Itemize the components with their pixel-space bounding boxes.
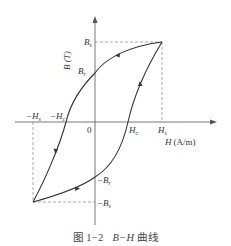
label-neg-Bs: −Bs bbox=[97, 198, 112, 209]
caption-formula: B−H bbox=[112, 232, 134, 243]
label-neg-Hs: −Hs bbox=[26, 111, 42, 122]
label-neg-Br: −Br bbox=[97, 175, 112, 186]
x-axis-title: H(A/m) bbox=[164, 137, 196, 147]
x-axis-arrow-icon bbox=[210, 120, 217, 125]
label-Hs: Hs bbox=[157, 125, 168, 136]
label-Hc: Hc bbox=[128, 125, 139, 136]
y-axis-title: B (T) bbox=[62, 51, 72, 70]
label-Br: Br bbox=[78, 66, 87, 77]
figure-caption: 图 1−2 B−H 曲线 bbox=[0, 229, 231, 244]
arrow-left-icon bbox=[115, 53, 120, 58]
caption-suffix: 曲线 bbox=[137, 232, 158, 243]
caption-prefix: 图 1−2 bbox=[73, 232, 104, 243]
label-neg-Hc: −Hc bbox=[50, 111, 66, 122]
y-axis-arrow-icon bbox=[93, 16, 98, 23]
bh-hysteresis-figure: Bs Br −Br −Bs B (T) −Hs −Hc 0 Hc Hs H(A/… bbox=[0, 0, 231, 246]
axes bbox=[15, 20, 213, 225]
label-origin: 0 bbox=[87, 125, 92, 135]
label-Bs: Bs bbox=[84, 37, 93, 48]
